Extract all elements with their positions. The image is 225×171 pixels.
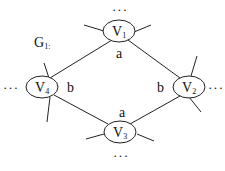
edge-v1-v2 xyxy=(128,40,180,78)
stub-v1-left xyxy=(84,25,104,31)
node-v1: V1 xyxy=(103,20,135,42)
stub-v2-bottom xyxy=(189,97,201,112)
ellipsis-bottom: ··· xyxy=(113,148,129,163)
edge-label-a-top: a xyxy=(116,46,123,61)
stub-v3-right xyxy=(137,134,154,141)
edge-label-b-right: b xyxy=(157,80,164,95)
edge-label-a-bottom: a xyxy=(119,105,126,120)
node-v3: V3 xyxy=(104,121,136,143)
graph-diagram: V1 V2 V3 V4 a b b a G1: ··· ··· ··· ··· xyxy=(0,0,225,171)
edge-v4-v3 xyxy=(54,95,108,124)
edge-label-b-left: b xyxy=(67,80,74,95)
edge-v1-v4 xyxy=(50,40,112,78)
stub-v3-left xyxy=(86,134,104,139)
ellipsis-top: ··· xyxy=(112,2,128,17)
node-v2: V2 xyxy=(173,76,205,98)
ellipsis-left: ··· xyxy=(3,80,19,95)
graph-title: G1: xyxy=(34,35,50,51)
stub-v4-bottom xyxy=(47,97,50,122)
edge-v2-v3 xyxy=(130,96,180,124)
stub-v2-top xyxy=(191,56,197,76)
stub-v1-right xyxy=(134,25,151,32)
ellipsis-right: ··· xyxy=(208,80,224,95)
node-v4: V4 xyxy=(26,76,58,98)
